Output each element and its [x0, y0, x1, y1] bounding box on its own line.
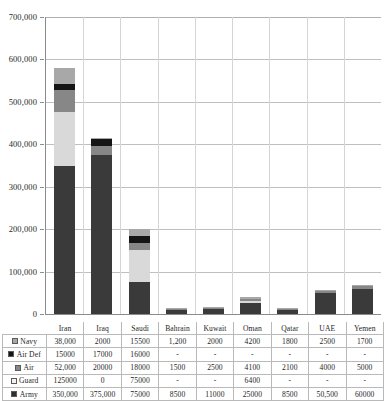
bar-segment-air [91, 146, 112, 154]
y-tick-label: 200,000 [9, 224, 37, 234]
table-header-row: IranIraqSaudiBahrainKuwaitOmanQatarUAEYe… [3, 322, 384, 335]
legend-swatch-icon [11, 378, 17, 384]
plot-region: 700,000600,000500,000400,000300,000200,0… [0, 0, 385, 322]
bar-segment-air [129, 243, 150, 251]
table-column-header: Iraq [84, 322, 121, 335]
bar-slot-bahrain [158, 17, 195, 314]
table-cell: 1500 [159, 361, 196, 374]
bar-segment-army [240, 303, 261, 314]
table-cell: 50,500 [309, 387, 346, 400]
plot-area [45, 17, 381, 315]
bar-stack[interactable] [315, 290, 336, 314]
table-cell: 5000 [346, 361, 383, 374]
legend-swatch-icon [8, 351, 14, 357]
table-cell: 11000 [196, 387, 233, 400]
table-cell: - [196, 374, 233, 387]
table-column-header: UAE [309, 322, 346, 335]
table-row: Guard125000075000--6400--- [3, 374, 384, 387]
y-tick-mark [40, 272, 44, 273]
bar-segment-army [277, 310, 298, 314]
table-cell: 8500 [159, 387, 196, 400]
legend-cell-guard: Guard [3, 374, 47, 387]
table-row: Navy38,0002000155001,2002000420018002500… [3, 335, 384, 348]
legend-cell-air: Air [3, 361, 47, 374]
legend-label: Air [24, 363, 34, 372]
y-tick-label: 0 [33, 309, 37, 319]
y-tick-label: 300,000 [9, 182, 37, 192]
y-tick-label: 700,000 [9, 12, 37, 22]
bar-segment-air-def [129, 236, 150, 243]
y-tick-mark [40, 102, 44, 103]
bar-stack[interactable] [203, 307, 224, 314]
table-row: Army350,000375,0007500085001100025000850… [3, 387, 384, 400]
bar-segment-army [166, 310, 187, 314]
table-cell: 1,200 [159, 335, 196, 348]
table-cell: 2000 [196, 335, 233, 348]
table-cell: 125000 [47, 374, 84, 387]
table-cell: 8500 [271, 387, 308, 400]
bar-stack[interactable] [91, 138, 112, 314]
legend-cell-air-def: Air Def [3, 348, 47, 361]
table-cell: - [346, 348, 383, 361]
bar-slot-iraq [83, 17, 120, 314]
table-cell: 0 [84, 374, 121, 387]
table-cell: 17000 [84, 348, 121, 361]
legend-label: Navy [20, 337, 37, 346]
table-column-header: Yemen [346, 322, 383, 335]
table-cell: 25000 [234, 387, 271, 400]
table-column-header: Bahrain [159, 322, 196, 335]
y-tick-label: 500,000 [9, 97, 37, 107]
table-body: Navy38,0002000155001,2002000420018002500… [3, 335, 384, 401]
table-cell: 350,000 [47, 387, 84, 400]
legend-swatch-icon [15, 365, 21, 371]
table-cell: 4100 [234, 361, 271, 374]
y-tick-label: 100,000 [9, 267, 37, 277]
table-corner-cell [3, 322, 47, 335]
table-cell: - [309, 374, 346, 387]
bar-slot-uae [307, 17, 344, 314]
bars-layer [46, 17, 381, 314]
legend-label: Army [20, 390, 38, 399]
table-cell: 15500 [121, 335, 158, 348]
table-cell: 1800 [271, 335, 308, 348]
table-cell: 2100 [271, 361, 308, 374]
table-cell: 75000 [121, 374, 158, 387]
table-cell: 38,000 [47, 335, 84, 348]
y-tick-mark [40, 187, 44, 188]
bar-stack[interactable] [352, 285, 373, 314]
bar-stack[interactable] [129, 229, 150, 314]
bar-slot-kuwait [195, 17, 232, 314]
legend-cell-army: Army [3, 387, 47, 400]
bar-slot-iran [46, 17, 83, 314]
table-cell: - [271, 348, 308, 361]
table-cell: 18000 [121, 361, 158, 374]
bar-segment-army [352, 289, 373, 314]
bar-segment-army [315, 293, 336, 314]
table-cell: 15000 [47, 348, 84, 361]
y-tick-mark [40, 314, 44, 315]
table-cell: 2500 [196, 361, 233, 374]
bar-stack[interactable] [54, 68, 75, 314]
table-cell: 4200 [234, 335, 271, 348]
bar-segment-army [91, 155, 112, 314]
bar-slot-qatar [269, 17, 306, 314]
y-tick-mark [40, 144, 44, 145]
bar-segment-army [129, 282, 150, 314]
table-cell: 75000 [121, 387, 158, 400]
bar-stack[interactable] [277, 308, 298, 314]
legend-cell-navy: Navy [3, 335, 47, 348]
bar-stack[interactable] [240, 297, 261, 314]
table-cell: - [234, 348, 271, 361]
table-column-header: Oman [234, 322, 271, 335]
table-cell: - [159, 374, 196, 387]
y-tick-label: 400,000 [9, 139, 37, 149]
bar-segment-guard [54, 112, 75, 165]
table-cell: 4000 [309, 361, 346, 374]
table-cell: - [159, 348, 196, 361]
bar-slot-saudi [120, 17, 157, 314]
table-row: Air52,0002000018000150025004100210040005… [3, 361, 384, 374]
bar-segment-army [203, 309, 224, 314]
table-cell: 2500 [309, 335, 346, 348]
bar-segment-guard [129, 250, 150, 282]
bar-stack[interactable] [166, 308, 187, 314]
